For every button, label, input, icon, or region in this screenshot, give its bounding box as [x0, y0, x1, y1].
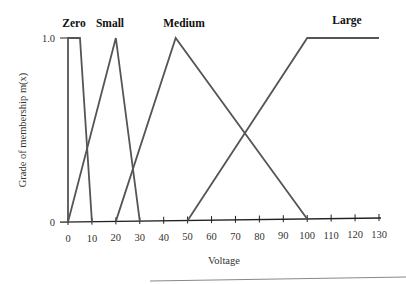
label-small: Small: [96, 17, 124, 29]
x-tick-label: 80: [254, 231, 265, 242]
x-tick-label: 120: [347, 229, 363, 240]
label-large: Large: [332, 14, 361, 27]
x-tick-label: 40: [158, 232, 169, 243]
page-edge-line: [150, 277, 406, 281]
series-small: [68, 38, 140, 222]
x-tick-label: 10: [87, 233, 98, 244]
label-medium: Medium: [163, 17, 205, 29]
x-tick-label: 130: [371, 229, 387, 240]
label-zero: Zero: [62, 17, 86, 29]
x-axis: [60, 218, 381, 222]
x-tick-label: 50: [182, 231, 193, 242]
x-axis-label: Voltage: [208, 255, 240, 266]
series-large: [188, 38, 379, 220]
y-tick-label: 1.0: [42, 33, 55, 44]
x-tick-label: 30: [135, 232, 146, 243]
series-lines: [68, 38, 379, 222]
x-tick-label: 100: [299, 230, 315, 241]
x-tick-label: 0: [65, 233, 70, 244]
x-tick-label: 20: [111, 232, 122, 243]
membership-chart: 01020304050607080901001101201301.00 Volt…: [0, 0, 406, 284]
y-tick-label: 0: [50, 217, 55, 228]
x-tick-label: 60: [206, 231, 217, 242]
x-tick-label: 90: [278, 230, 289, 241]
series-medium: [116, 38, 307, 221]
x-tick-label: 70: [230, 231, 241, 242]
axes: 01020304050607080901001101201301.00: [42, 33, 387, 244]
x-tick-label: 110: [323, 230, 338, 241]
y-axis-label: Grade of membership m(x): [17, 72, 29, 187]
series-zero: [68, 38, 92, 222]
